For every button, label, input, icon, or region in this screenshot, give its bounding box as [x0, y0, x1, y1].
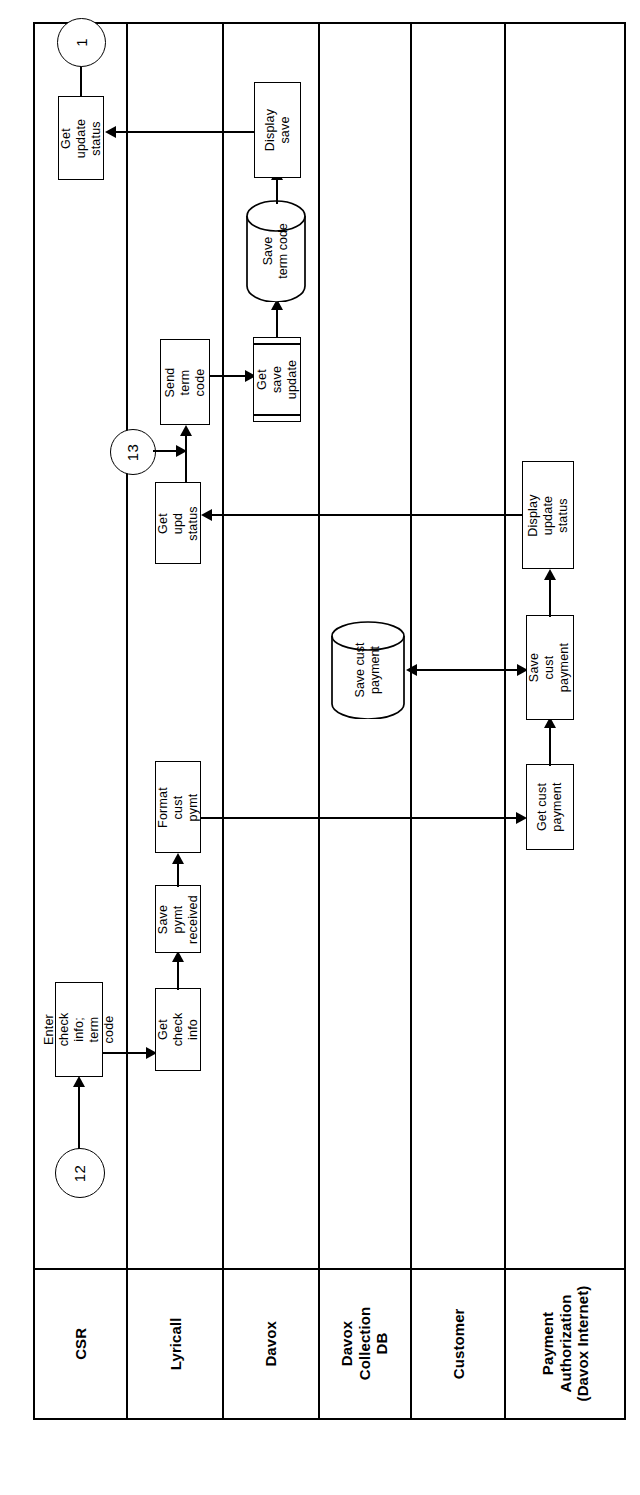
lane-label-lyricall: Lyricall: [128, 1268, 222, 1420]
flow-line: [201, 817, 517, 819]
node-label: Get upd status: [156, 501, 201, 545]
node-label: Send term code: [163, 358, 208, 406]
lane-divider: [126, 22, 128, 1420]
node-label: Save term code: [261, 223, 291, 279]
flow-line: [80, 63, 82, 97]
flow-line: [276, 178, 278, 204]
lane-label-text: CSR: [72, 1328, 90, 1360]
node-label: Enter check info; term code: [42, 1007, 117, 1053]
connector-13-label: 13: [124, 443, 141, 460]
lane-label-davox: Davox: [224, 1268, 318, 1420]
flow-line: [153, 450, 178, 452]
node-save-term-code-db: Save term code: [245, 200, 307, 302]
flow-line: [116, 131, 258, 133]
lane-label-customer: Customer: [412, 1268, 504, 1420]
flow-line: [417, 669, 518, 671]
node-save-pymt-received: Save pymt received: [155, 885, 201, 953]
connector-13: 13: [110, 429, 156, 475]
flow-line: [210, 375, 246, 377]
flow-line: [276, 308, 278, 338]
node-label: Save cust payment: [353, 643, 383, 698]
lane-label-csr: CSR: [35, 1268, 126, 1420]
node-get-upd-status: Get upd status: [155, 482, 201, 564]
node-label: Save pymt received: [156, 895, 201, 944]
lane-label-text: Payment Authorization (Davox Internet): [539, 1286, 592, 1402]
flow-line: [549, 726, 551, 766]
node-label: Format cust pymt: [156, 785, 201, 829]
node-label: Get cust payment: [535, 782, 565, 831]
node-label: Get check info: [156, 1008, 201, 1052]
lane-divider: [410, 22, 412, 1420]
connector-12: 12: [55, 1148, 105, 1198]
flow-arrowhead: [172, 853, 184, 864]
flow-line: [103, 1052, 147, 1054]
flow-line: [185, 434, 187, 483]
flow-arrowhead: [176, 445, 187, 457]
lane-divider: [318, 22, 320, 1420]
node-display-save: Display save: [254, 82, 301, 178]
flow-line: [177, 960, 179, 990]
lane-label-text: Lyricall: [166, 1318, 184, 1371]
node-label: Display update status: [526, 490, 571, 540]
flow-arrowhead: [73, 1076, 85, 1087]
flow-line: [549, 578, 551, 617]
flow-line: [177, 862, 179, 887]
connector-1: 1: [57, 18, 106, 67]
node-label: Get save update: [255, 357, 300, 403]
flow-arrowhead: [105, 126, 116, 138]
swimlane-frame: [33, 22, 626, 1420]
node-label: Display save: [263, 108, 293, 153]
node-send-term-code: Send term code: [160, 339, 210, 425]
node-get-check-info: Get check info: [155, 988, 201, 1071]
node-get-update-status: Get update status: [58, 96, 104, 180]
node-save-cust-payment: Save cust payment: [526, 615, 574, 720]
lane-divider: [222, 22, 224, 1420]
lane-label-davox-collection-db: Davox Collection DB: [320, 1268, 410, 1420]
flowchart-canvas: CSR Lyricall Davox Davox Collection DB C…: [0, 0, 640, 1495]
lane-label-payment-authorization: Payment Authorization (Davox Internet): [506, 1268, 626, 1420]
node-save-cust-payment-db: Save cust payment: [330, 621, 406, 719]
lane-divider: [504, 22, 506, 1420]
flow-arrowhead: [180, 425, 192, 436]
flow-arrowhead: [544, 569, 556, 580]
flow-arrowhead: [406, 664, 417, 676]
node-label: Get update status: [59, 116, 104, 160]
node-format-cust-pymt: Format cust pymt: [155, 761, 201, 853]
node-display-update-status: Display update status: [522, 461, 574, 569]
node-get-cust-payment: Get cust payment: [526, 764, 574, 850]
node-get-save-update: Get save update: [253, 337, 301, 422]
node-label: Save cust payment: [528, 643, 573, 692]
connector-1-label: 1: [73, 38, 90, 47]
lane-label-text: Davox Collection DB: [338, 1299, 391, 1389]
connector-12-label: 12: [71, 1164, 88, 1181]
flow-line: [212, 514, 522, 516]
lane-label-text: Davox: [262, 1321, 280, 1367]
node-enter-check-info: Enter check info; term code: [55, 982, 103, 1077]
flow-arrowhead: [201, 509, 212, 521]
lane-label-text: Customer: [449, 1309, 467, 1380]
flow-line: [78, 1085, 80, 1149]
